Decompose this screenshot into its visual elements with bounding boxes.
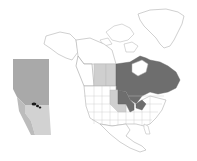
florida [144,124,150,134]
mexico [100,124,146,152]
saskatchewan [106,64,116,86]
alberta [94,64,106,86]
occurrence-point [36,105,39,107]
occurrence-point [39,106,42,108]
greenland [138,9,184,48]
alberta-inset-map [13,59,57,135]
alaska [44,32,78,60]
occurrence-point [32,103,37,106]
alberta-inset-north [13,59,49,105]
